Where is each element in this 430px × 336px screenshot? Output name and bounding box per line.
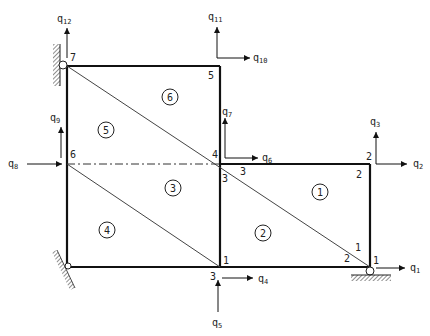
node-3-label: 3 xyxy=(210,271,216,282)
q3-label: q3 xyxy=(370,116,380,129)
pin-support-top-left xyxy=(53,44,67,86)
local-2-corner: 2 xyxy=(344,253,350,264)
q7-label: q7 xyxy=(222,106,232,119)
q1-label: q1 xyxy=(410,262,420,275)
q9-label: q9 xyxy=(50,112,60,125)
element-labels: 1 2 3 4 5 6 xyxy=(103,92,323,239)
node-1-label: 1 xyxy=(373,255,379,266)
node-5-label: 5 xyxy=(208,70,214,81)
element-6-label: 6 xyxy=(167,92,173,103)
q12-label: q12 xyxy=(57,13,71,26)
element-1-label: 1 xyxy=(317,187,323,198)
local-1-corner: 1 xyxy=(355,242,361,253)
local-3-below: 3 xyxy=(222,173,228,184)
element-3-label: 3 xyxy=(170,183,176,194)
q4-label: q4 xyxy=(258,273,268,286)
element-4-label: 4 xyxy=(104,225,110,236)
element-diagonals xyxy=(67,66,370,267)
node-labels: 7 5 6 4 2 1 3 3 3 2 1 2 1 xyxy=(70,52,379,282)
pin-support-bottom-left xyxy=(52,250,75,290)
roller-support-bottom-right xyxy=(351,267,391,281)
local-3-right: 3 xyxy=(240,166,246,177)
node-7-label: 7 xyxy=(70,52,76,63)
element-5-label: 5 xyxy=(103,125,109,136)
node-6-label: 6 xyxy=(70,149,76,160)
node-2-label: 2 xyxy=(366,151,372,162)
diagram-canvas: 1 2 3 4 5 6 7 5 6 4 2 1 3 3 3 2 1 2 1 xyxy=(0,0,430,336)
dof-arrows xyxy=(27,27,407,312)
q11-label: q11 xyxy=(208,11,222,24)
element-2-label: 2 xyxy=(260,228,266,239)
q5-label: q5 xyxy=(212,317,222,330)
fem-diagram: 1 2 3 4 5 6 7 5 6 4 2 1 3 3 3 2 1 2 1 xyxy=(0,0,430,336)
q10-label: q10 xyxy=(253,52,267,65)
node-4-label: 4 xyxy=(212,149,218,160)
local-1-at-3: 1 xyxy=(223,255,229,266)
q8-label: q8 xyxy=(8,158,18,171)
q2-label: q2 xyxy=(413,158,423,171)
local-2-inside: 2 xyxy=(356,169,362,180)
